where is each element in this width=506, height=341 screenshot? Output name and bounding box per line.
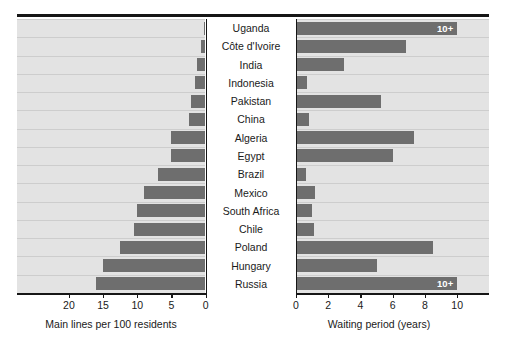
chart-row: South Africa <box>17 202 489 220</box>
chart-row: China <box>17 110 489 128</box>
bar-main-lines <box>171 131 205 144</box>
bar-main-lines <box>137 204 205 217</box>
bar-main-lines <box>189 113 206 126</box>
right-axis-tick <box>457 293 458 298</box>
bar-waiting-period <box>296 259 377 272</box>
bar-waiting-period <box>296 186 315 199</box>
bar-main-lines <box>103 259 206 272</box>
bar-waiting-period <box>296 168 306 181</box>
bar-waiting-period <box>296 223 314 236</box>
row-band-right <box>297 165 489 183</box>
country-label: Algeria <box>205 129 297 147</box>
left-axis-tick <box>69 293 70 298</box>
chart-row: Egypt <box>17 147 489 165</box>
row-band-left <box>17 110 205 128</box>
row-band-right <box>297 74 489 92</box>
right-axis-tick-label: 2 <box>325 299 331 311</box>
row-band-right <box>297 202 489 220</box>
bar-main-lines <box>144 186 206 199</box>
country-label: India <box>205 56 297 74</box>
country-label: China <box>205 110 297 128</box>
country-label: Chile <box>205 220 297 238</box>
left-axis-tick-label: 5 <box>169 299 175 311</box>
right-axis-tick-label: 10 <box>451 299 463 311</box>
left-axis-tick <box>137 293 138 298</box>
chart-row: Algeria <box>17 129 489 147</box>
right-axis-zero-line <box>296 19 297 295</box>
bar-waiting-period <box>296 113 309 126</box>
right-axis-tick-label: 6 <box>390 299 396 311</box>
bar-main-lines <box>191 95 206 108</box>
country-label: Russia <box>205 275 297 293</box>
left-axis-tick-label: 20 <box>63 299 75 311</box>
bar-waiting-period <box>296 40 406 53</box>
row-band-right <box>297 110 489 128</box>
row-band-left <box>17 37 205 55</box>
right-axis-tick <box>296 293 297 298</box>
bar-main-lines <box>96 277 205 290</box>
row-band-left <box>17 56 205 74</box>
right-axis-tick-label: 4 <box>358 299 364 311</box>
right-axis-tick <box>425 293 426 298</box>
bar-waiting-period <box>296 58 344 71</box>
right-axis-tick-label: 8 <box>422 299 428 311</box>
chart-row: Brazil <box>17 165 489 183</box>
left-axis-tick-label: 15 <box>97 299 109 311</box>
right-axis-title: Waiting period (years) <box>328 318 430 330</box>
bar-waiting-period <box>296 95 381 108</box>
chart-row: Chile <box>17 220 489 238</box>
country-label: Indonesia <box>205 74 297 92</box>
bar-main-lines <box>120 241 205 254</box>
country-label: Brazil <box>205 165 297 183</box>
bar-waiting-period <box>296 131 414 144</box>
row-band-right <box>297 183 489 201</box>
bar-waiting-period: 10+ <box>296 277 457 290</box>
country-label: Hungary <box>205 256 297 274</box>
right-axis-tick <box>328 293 329 298</box>
left-axis-tick <box>103 293 104 298</box>
chart-row: Mexico <box>17 183 489 201</box>
bar-value-label: 10+ <box>437 22 453 35</box>
row-band-left <box>17 92 205 110</box>
chart-row: Indonesia <box>17 74 489 92</box>
country-label: South Africa <box>205 202 297 220</box>
bar-main-lines <box>171 149 205 162</box>
plot-area: 10+UgandaCôte d'IvoireIndiaIndonesiaPaki… <box>17 19 489 293</box>
bar-waiting-period <box>296 76 307 89</box>
left-axis-tick-label: 0 <box>203 299 209 311</box>
row-band-right <box>297 220 489 238</box>
bar-waiting-period <box>296 149 393 162</box>
bar-waiting-period <box>296 241 433 254</box>
chart-row: 10+Russia <box>17 275 489 293</box>
row-band-left <box>17 19 205 37</box>
country-label: Pakistan <box>205 92 297 110</box>
country-label: Uganda <box>205 19 297 37</box>
bar-waiting-period <box>296 204 312 217</box>
bar-value-label: 10+ <box>437 277 453 290</box>
chart-row: Poland <box>17 238 489 256</box>
left-axis-tick <box>206 293 207 298</box>
left-axis-zero-line <box>206 19 207 295</box>
bar-main-lines <box>134 223 206 236</box>
left-axis-title: Main lines per 100 residents <box>45 318 176 330</box>
right-axis-tick <box>360 293 361 298</box>
country-label: Egypt <box>205 147 297 165</box>
chart-row: 10+Uganda <box>17 19 489 37</box>
row-band-left <box>17 74 205 92</box>
country-label: Mexico <box>205 183 297 201</box>
left-axis-tick <box>171 293 172 298</box>
country-label: Côte d'Ivoire <box>205 37 297 55</box>
chart-row: Pakistan <box>17 92 489 110</box>
bar-waiting-period: 10+ <box>296 22 457 35</box>
left-axis-line <box>17 293 207 295</box>
chart-row: Hungary <box>17 256 489 274</box>
bar-main-lines <box>158 168 206 181</box>
chart-row: India <box>17 56 489 74</box>
chart-top-rule <box>17 14 489 17</box>
chart-root: 10+UgandaCôte d'IvoireIndiaIndonesiaPaki… <box>0 0 506 341</box>
left-axis-tick-label: 10 <box>131 299 143 311</box>
country-label: Poland <box>205 238 297 256</box>
right-axis-tick <box>393 293 394 298</box>
chart-row: Côte d'Ivoire <box>17 37 489 55</box>
right-axis-tick-label: 0 <box>293 299 299 311</box>
